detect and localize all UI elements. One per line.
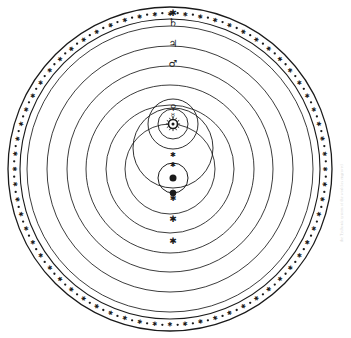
fixed-star-dot	[28, 101, 30, 103]
jupiter-orbit	[47, 46, 293, 292]
fixed-star-glyph: ✱	[226, 21, 233, 29]
fixed-star-glyph: ✱	[303, 239, 312, 247]
fixed-star-glyph: ✱	[295, 78, 304, 86]
fixed-star-dot	[320, 130, 322, 132]
fixed-star-glyph: ✱	[310, 106, 318, 113]
planet-symbols-group: ♄♃♂♀☿	[168, 16, 178, 121]
fixed-star-dot	[35, 88, 37, 90]
fixed-star-glyph: ✱	[240, 302, 248, 311]
fixed-star-glyph: ✱	[45, 66, 54, 74]
fixed-star-dot	[76, 293, 78, 295]
fixed-star-dot	[13, 176, 15, 178]
sun-ray	[176, 118, 177, 120]
fixed-star-dot	[192, 322, 194, 324]
fixed-star-dot	[13, 160, 15, 162]
fixed-star-glyph: ✱	[22, 106, 30, 113]
fixed-star-dot	[294, 75, 296, 77]
diagram-canvas: ✱✱✱✱✱✱✱✱✱✱✱✱✱✱✱✱✱✱✱✱✱✱✱✱✱✱✱✱✱✱✱✱✱✱✱✱✱✱✱✱…	[0, 0, 351, 338]
fixed-star-glyph: ✱	[321, 151, 328, 157]
fixed-star-dot	[89, 34, 91, 36]
fixed-star-dot	[207, 17, 209, 19]
fixed-star-dot	[146, 322, 148, 324]
fixed-star-dot	[323, 145, 325, 147]
fixed-star-glyph: ✱	[13, 135, 21, 141]
fixed-star-dot	[249, 302, 251, 304]
fixed-star-dot	[161, 12, 163, 14]
fixed-star-dot	[15, 191, 17, 193]
fixed-star-dot	[262, 43, 264, 45]
marker-node-c: ✱	[170, 194, 177, 203]
fixed-star-dot	[316, 115, 318, 117]
fixed-star-glyph: ✱	[107, 309, 114, 317]
marker-node-d: ✱	[169, 214, 177, 224]
fixed-star-glyph: ✱	[226, 309, 233, 317]
fixed-star-dot	[221, 315, 223, 317]
sun-center-dot	[172, 123, 175, 126]
fixed-star-dot	[310, 235, 312, 237]
fixed-star-dot	[249, 34, 251, 36]
fixed-star-glyph: ✱	[240, 27, 248, 36]
fixed-star-glyph: ✱	[13, 196, 21, 202]
fixed-star-glyph: ✱	[303, 92, 312, 100]
fixed-star-dot	[207, 319, 209, 321]
fixed-star-glyph: ✱	[319, 135, 327, 141]
fixed-star-glyph: ✱	[11, 166, 18, 171]
fixed-star-glyph: ✱	[276, 275, 285, 284]
fixed-star-dot	[274, 283, 276, 285]
fixed-star-dot	[236, 27, 238, 29]
sun-ray	[177, 120, 179, 121]
fixed-star-glyph: ✱	[310, 225, 318, 232]
fixed-star-glyph: ✱	[36, 251, 45, 259]
fixed-star-dot	[131, 319, 133, 321]
fixed-star-glyph: ✱	[315, 120, 323, 127]
fixed-star-dot	[177, 12, 179, 14]
fixed-star-glyph: ✱	[295, 251, 304, 259]
fixed-star-glyph: ✱	[212, 314, 219, 322]
fixed-star-glyph: ✱	[182, 320, 188, 327]
fixed-star-dot	[320, 206, 322, 208]
figure-caption: the Tychonic system of the world as engr…	[339, 62, 350, 242]
sun-ray	[167, 120, 169, 121]
fixed-star-dot	[303, 248, 305, 250]
fixed-star-glyph: ✱	[286, 66, 295, 74]
marker-node-e: ✱	[169, 236, 177, 246]
fixed-star-dot	[323, 191, 325, 193]
fixed-star-dot	[325, 176, 327, 178]
fixed-star-dot	[310, 101, 312, 103]
fixed-star-dot	[89, 302, 91, 304]
fixed-star-dot	[262, 293, 264, 295]
sun-ray	[177, 127, 179, 128]
stellar-band-outer-circle	[8, 7, 332, 331]
fixed-star-dot	[303, 88, 305, 90]
fixed-star-dot	[177, 324, 179, 326]
fixed-star-glyph: ✱	[45, 264, 54, 272]
fixed-star-dot	[284, 63, 286, 65]
fixed-star-glyph: ✱	[22, 225, 30, 232]
fixed-star-dot	[22, 115, 24, 117]
fixed-star-dot	[102, 27, 104, 29]
venus-symbol: ♀	[170, 103, 176, 112]
fixed-star-glyph: ✱	[36, 78, 45, 86]
fixed-star-dot	[76, 43, 78, 45]
fixed-star-glyph: ✱	[11, 181, 18, 187]
fixed-star-glyph: ✱	[152, 320, 158, 327]
fixed-star-glyph: ✱	[93, 27, 101, 36]
fixed-star-dot	[64, 52, 66, 54]
fixed-star-glyph: ✱	[28, 239, 37, 247]
fixed-star-dot	[146, 14, 148, 16]
mercury-symbol: ☿	[171, 112, 175, 120]
fixed-star-glyph: ✱	[107, 21, 114, 29]
fixed-star-glyph: ✱	[136, 318, 142, 326]
fixed-star-dot	[28, 235, 30, 237]
marker-node-b: ✱	[170, 161, 176, 169]
fixed-star-dot	[44, 261, 46, 263]
fixed-star-glyph: ✱	[11, 151, 18, 157]
sun-ray	[167, 127, 169, 128]
fixed-star-dot	[102, 309, 104, 311]
fixed-star-glyph: ✱	[319, 196, 327, 202]
fixed-star-glyph: ✱	[121, 16, 128, 24]
fixed-star-dot	[294, 261, 296, 263]
fixed-star-dot	[22, 220, 24, 222]
sun-ray	[169, 128, 170, 130]
fixed-star-glyph: ✱	[67, 285, 75, 294]
